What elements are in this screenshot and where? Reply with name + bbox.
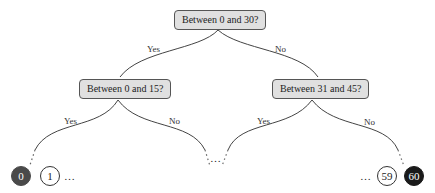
right-question-label: Between 31 and 45? [280, 83, 361, 94]
ellipsis-before-59: … [360, 170, 372, 182]
right-question-node: Between 31 and 45? [272, 79, 369, 99]
left-question-node: Between 0 and 15? [79, 79, 171, 99]
ellipsis-after-1: … [64, 170, 76, 182]
edge-label-left-no: No [169, 116, 180, 126]
leaf-node-59: 59 [377, 166, 397, 186]
leaf-node-0: 0 [11, 166, 31, 186]
root-question-node: Between 0 and 30? [174, 10, 266, 30]
edge-label-root-yes: Yes [147, 44, 160, 54]
edge-label-root-no: No [275, 44, 286, 54]
leaf-node-60: 60 [404, 166, 424, 186]
edge-label-right-yes: Yes [257, 116, 270, 126]
edge-label-right-no: No [364, 117, 375, 127]
left-question-label: Between 0 and 15? [87, 83, 163, 94]
edge-label-left-yes: Yes [64, 116, 77, 126]
decision-tree-diagram: Between 0 and 30? Between 0 and 15? Betw… [0, 0, 435, 193]
ellipsis-middle: … [210, 152, 222, 164]
root-question-label: Between 0 and 30? [182, 14, 258, 25]
leaf-node-1: 1 [40, 166, 60, 186]
